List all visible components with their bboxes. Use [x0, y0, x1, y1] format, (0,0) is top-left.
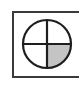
quadrant-circle-icon — [0, 0, 79, 87]
